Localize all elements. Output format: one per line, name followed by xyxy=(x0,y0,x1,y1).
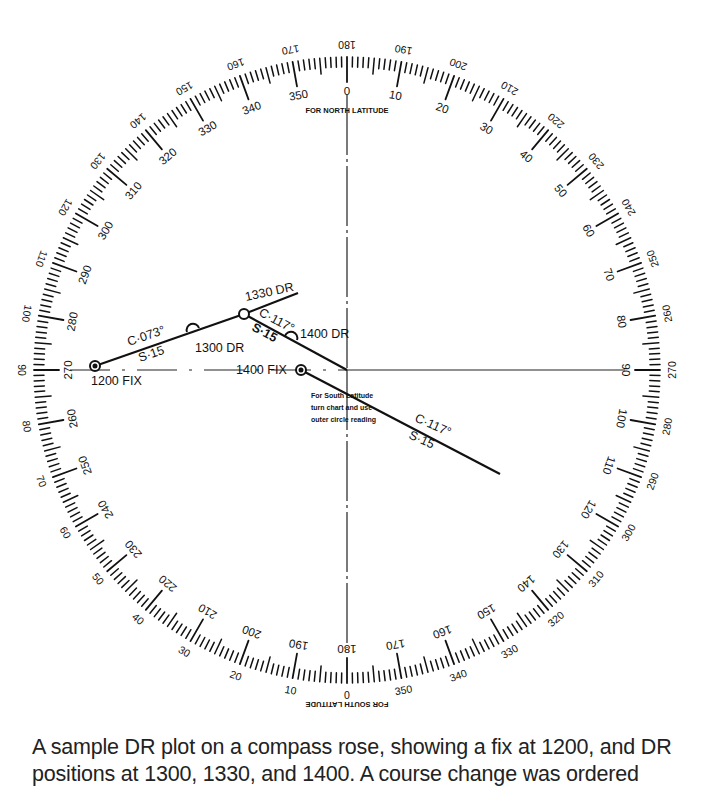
degree-tick xyxy=(641,443,651,445)
degree-tick xyxy=(61,243,70,247)
degree-tick xyxy=(489,94,494,103)
degree-tick xyxy=(643,305,653,307)
degree-tick xyxy=(235,653,239,662)
degree-tick xyxy=(612,517,621,522)
degree-tick xyxy=(210,642,214,651)
degree-tick xyxy=(100,557,108,563)
degree-tick xyxy=(320,58,321,74)
degree-tick xyxy=(634,469,643,472)
degree-tick xyxy=(159,120,165,128)
degree-tick xyxy=(649,391,659,392)
inner-degree-label: 230 xyxy=(122,538,144,560)
degree-tick xyxy=(215,86,222,101)
outer-degree-label: 330 xyxy=(499,642,520,661)
degree-tick xyxy=(97,182,105,188)
degree-tick xyxy=(138,137,145,144)
degree-tick xyxy=(586,177,594,183)
degree-tick xyxy=(282,666,284,676)
degree-tick xyxy=(534,123,540,131)
degree-tick xyxy=(46,284,56,287)
degree-tick xyxy=(617,508,626,512)
degree-tick xyxy=(635,464,645,467)
degree-tick xyxy=(630,258,639,262)
degree-tick xyxy=(230,80,234,89)
degree-tick xyxy=(45,447,60,451)
degree-tick xyxy=(415,665,417,675)
degree-tick xyxy=(51,268,60,271)
inner-degree-label: 250 xyxy=(76,454,94,476)
degree-tick xyxy=(71,223,80,228)
degree-tick xyxy=(503,102,508,111)
inner-degree-label: 10 xyxy=(388,88,403,102)
degree-tick xyxy=(456,78,460,87)
caption-line-2: positions at 1300, 1330, and 1400. A cou… xyxy=(32,761,692,786)
degree-tick xyxy=(598,195,606,201)
degree-tick xyxy=(298,669,300,679)
degree-tick xyxy=(200,94,205,103)
south-latitude-note: For South Latitude turn chart and use ou… xyxy=(311,392,376,424)
degree-tick xyxy=(405,63,407,73)
degree-tick xyxy=(550,595,557,602)
inner-degree-label: 130 xyxy=(550,538,572,560)
outer-degree-label: 50 xyxy=(90,570,107,587)
inner-degree-label: 100 xyxy=(614,408,629,429)
degree-tick xyxy=(134,141,141,148)
degree-tick xyxy=(205,91,210,100)
degree-tick xyxy=(643,396,659,397)
degree-tick xyxy=(644,310,654,312)
degree-tick xyxy=(88,539,96,545)
degree-tick xyxy=(649,348,659,349)
degree-tick xyxy=(163,117,169,125)
degree-tick xyxy=(82,531,90,536)
degree-tick xyxy=(159,612,165,620)
outer-degree-label: 220 xyxy=(545,111,566,132)
degree-tick xyxy=(43,294,53,296)
inner-degree-label: 190 xyxy=(288,637,309,652)
degree-tick xyxy=(104,561,112,567)
degree-tick xyxy=(529,612,535,620)
degree-tick xyxy=(503,630,508,639)
degree-tick xyxy=(643,343,659,344)
degree-tick xyxy=(200,638,205,647)
outer-degree-label: 240 xyxy=(619,197,638,218)
degree-tick xyxy=(320,666,321,682)
outer-degree-label: 100 xyxy=(20,304,35,323)
degree-tick xyxy=(235,78,239,87)
degree-tick xyxy=(569,577,576,584)
outer-degree-label: 10 xyxy=(284,683,298,697)
degree-tick xyxy=(397,654,401,679)
degree-tick xyxy=(325,58,326,68)
degree-tick xyxy=(638,284,648,287)
degree-tick xyxy=(130,588,137,595)
degree-tick xyxy=(172,111,178,119)
degree-tick xyxy=(303,670,304,680)
degree-tick xyxy=(516,621,522,629)
svg-text:turn chart and use: turn chart and use xyxy=(311,404,372,411)
degree-tick xyxy=(59,488,68,492)
degree-tick xyxy=(624,493,633,497)
degree-tick xyxy=(420,664,422,674)
degree-tick xyxy=(648,407,658,408)
degree-tick xyxy=(516,111,522,119)
outer-degree-label: 320 xyxy=(545,608,566,629)
degree-tick xyxy=(85,200,93,206)
leg1-speed: S·15 xyxy=(136,343,166,365)
degree-tick xyxy=(49,464,59,467)
degree-tick xyxy=(626,488,635,492)
outer-degree-label: 130 xyxy=(88,151,109,172)
degree-tick xyxy=(146,130,162,149)
degree-tick xyxy=(277,65,279,75)
degree-tick xyxy=(384,59,385,69)
degree-tick xyxy=(550,137,557,144)
degree-tick xyxy=(79,209,88,214)
degree-tick xyxy=(59,248,68,252)
outer-degree-label: 160 xyxy=(225,56,246,73)
outer-degree-label: 210 xyxy=(499,79,520,98)
degree-tick xyxy=(624,243,633,247)
degree-tick xyxy=(100,177,108,183)
outer-degree-label: 350 xyxy=(394,682,413,697)
degree-tick xyxy=(298,61,300,71)
outer-degree-label: 180 xyxy=(338,39,356,51)
degree-tick xyxy=(48,459,58,462)
inner-degree-label: 220 xyxy=(156,573,178,595)
